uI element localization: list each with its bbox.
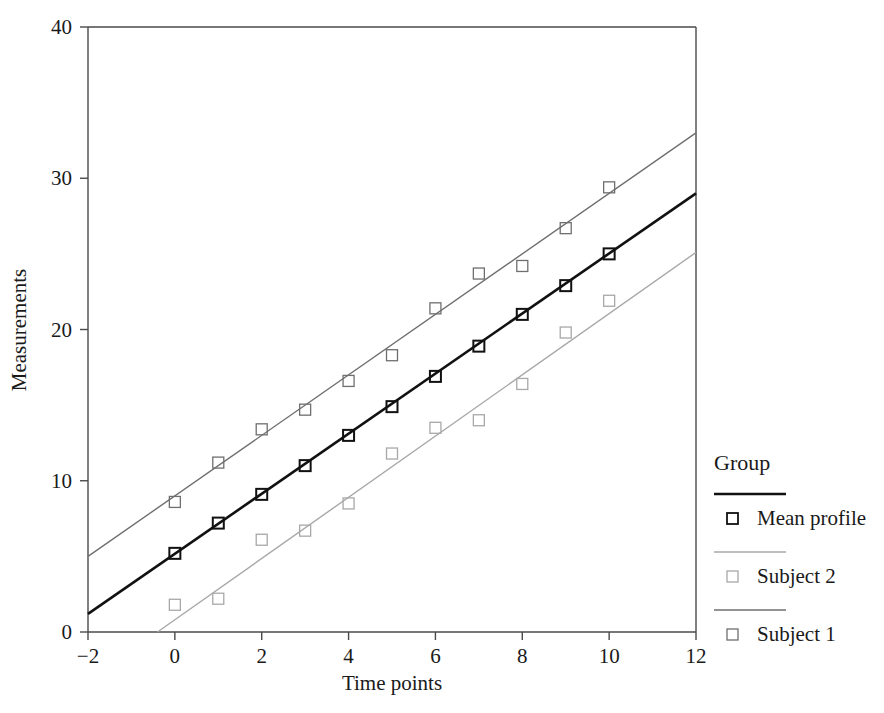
y-axis-ticks [80,27,88,632]
legend-title: Group [714,450,770,475]
series-line-subject-1 [88,133,696,557]
x-tick-label: 8 [517,644,528,668]
x-tick-label: 4 [343,644,354,668]
legend-entry-label: Subject 1 [757,622,836,646]
legend-entry-label: Mean profile [757,506,866,530]
legend-entry-label: Subject 2 [757,564,836,588]
chart-page: 010203040 −2024681012 Time points Measur… [0,0,884,713]
legend-entries: Mean profileSubject 2Subject 1 [714,494,866,646]
series-line-subject-2 [157,252,696,632]
data-point-marker [517,378,528,389]
scatter-plot: 010203040 −2024681012 Time points Measur… [0,0,884,713]
x-tick-label: 0 [170,644,181,668]
legend: Group Mean profileSubject 2Subject 1 [714,450,866,646]
x-tick-label: −2 [77,644,99,668]
data-point-marker [213,593,224,604]
series-line-mean-profile [88,193,696,613]
x-tick-label: 12 [686,644,707,668]
plot-frame [88,27,696,632]
x-tick-label: 2 [256,644,267,668]
data-point-marker [517,260,528,271]
y-tick-label: 10 [51,469,72,493]
y-axis-title: Measurements [7,269,31,391]
series-fit-lines [88,133,696,632]
data-point-marker [473,415,484,426]
data-point-marker [387,448,398,459]
y-tick-label: 40 [51,15,72,39]
legend-marker-swatch [727,513,738,524]
x-axis-tick-labels: −2024681012 [77,644,707,668]
y-tick-label: 30 [51,166,72,190]
data-point-marker [169,599,180,610]
data-point-marker [604,295,615,306]
series-data-markers [169,182,614,610]
data-point-marker [430,422,441,433]
data-point-marker [560,327,571,338]
legend-marker-swatch [727,571,738,582]
legend-marker-swatch [727,629,738,640]
x-axis-ticks [88,632,696,640]
y-tick-label: 20 [51,318,72,342]
data-point-marker [387,350,398,361]
data-point-marker [473,268,484,279]
x-axis-title: Time points [342,671,442,695]
x-tick-label: 10 [599,644,620,668]
y-axis-tick-labels: 010203040 [51,15,72,644]
x-tick-label: 6 [430,644,441,668]
y-tick-label: 0 [62,620,73,644]
data-point-marker [256,534,267,545]
